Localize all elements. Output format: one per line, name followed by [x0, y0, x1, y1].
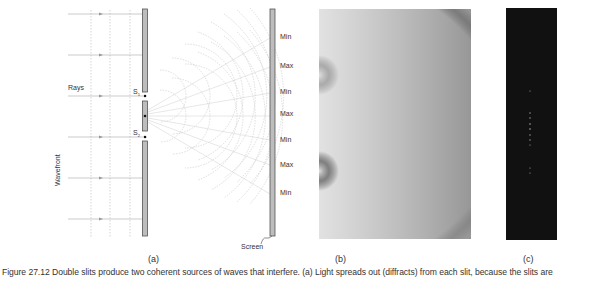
- panel-c-label: (c): [523, 254, 534, 264]
- screen-mark: Max: [280, 110, 293, 117]
- ray-arrows: [99, 13, 103, 221]
- fringe-dots: [506, 8, 557, 240]
- rays-label: Rays: [68, 84, 84, 91]
- wavefront-label: Wavefront: [54, 154, 61, 186]
- s2-label: S2: [133, 129, 140, 138]
- ray-lines: [68, 14, 143, 219]
- screen-mark: Min: [280, 189, 291, 196]
- slit-barrier: [143, 9, 148, 236]
- wavefront-lines: [91, 10, 130, 237]
- panel-b-label: (b): [335, 254, 346, 264]
- s2-subscript: 2: [138, 133, 140, 138]
- screen-mark: Min: [280, 136, 291, 143]
- interference-lines: [148, 38, 270, 194]
- wavefront-arcs: [160, 8, 284, 204]
- s1-label: S1: [133, 88, 140, 97]
- screen-mark: Min: [280, 33, 291, 40]
- screen-mark: Max: [280, 62, 293, 69]
- panel-c-fringe-image: [506, 8, 557, 240]
- panel-a-label: (a): [148, 254, 159, 264]
- panel-a-diagram: [0, 0, 310, 250]
- s1-subscript: 1: [138, 92, 140, 97]
- figure-caption: Figure 27.12 Double slits produce two co…: [2, 267, 612, 277]
- screen-label: Screen: [241, 243, 263, 250]
- screen-mark: Max: [280, 161, 293, 168]
- screen-mark: Min: [280, 88, 291, 95]
- panel-b-ripple-image: [319, 9, 471, 239]
- screen-bar: [270, 9, 275, 236]
